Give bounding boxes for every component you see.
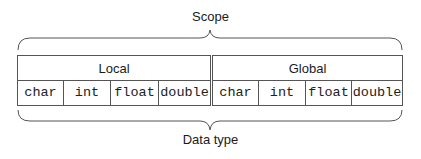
cell-local-int: int (64, 81, 111, 105)
cell-global-double: double (352, 81, 402, 105)
cell-local-float: float (111, 81, 159, 105)
group-global: Global char int float double (212, 55, 403, 106)
group-global-header: Global (213, 56, 402, 81)
scope-datatype-table: Local char int float double Global char … (17, 55, 403, 106)
cell-local-double: double (159, 81, 210, 105)
cell-global-char: char (213, 81, 259, 105)
cell-local-char: char (18, 81, 64, 105)
group-local: Local char int float double (17, 55, 211, 106)
cell-global-float: float (306, 81, 352, 105)
cell-global-int: int (259, 81, 306, 105)
data-type-label: Data type (0, 132, 421, 147)
group-local-header: Local (18, 56, 210, 81)
